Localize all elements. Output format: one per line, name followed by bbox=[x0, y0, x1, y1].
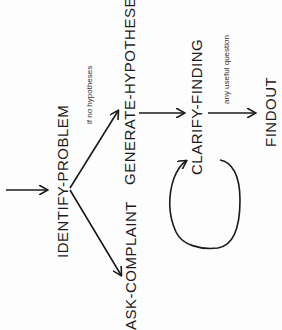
flow-diagram: IDENTIFY-PROBLEM ASK-COMPLAINT GENERATE-… bbox=[0, 0, 282, 330]
node-identify-problem: IDENTIFY-PROBLEM bbox=[54, 105, 71, 258]
node-ask-complaint: ASK-COMPLAINT bbox=[122, 201, 139, 330]
diagram-edges bbox=[0, 0, 282, 330]
node-clarify-finding: CLARIFY-FINDING bbox=[188, 39, 205, 175]
edge-label-any-useful-question: any useful question bbox=[222, 35, 231, 104]
node-generate-hypotheses: GENERATE-HYPOTHESES bbox=[121, 0, 138, 185]
node-findout: FINDOUT bbox=[262, 77, 279, 147]
arrow-identify-to-generate bbox=[70, 111, 118, 188]
edge-label-no-hypotheses: if no hypotheses bbox=[85, 66, 94, 124]
arrow-identify-to-ask bbox=[70, 190, 121, 275]
